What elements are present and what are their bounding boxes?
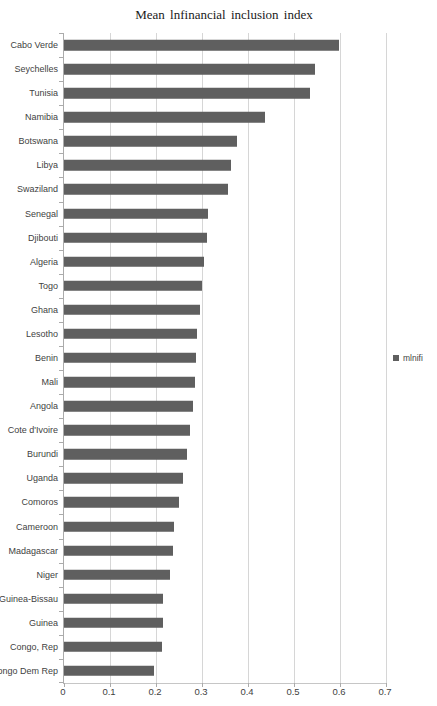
bar-row: Ghana	[0, 298, 437, 322]
category-label: Congo, Rep	[0, 635, 58, 659]
legend-marker-square	[393, 355, 399, 361]
x-tick-label: 0.2	[148, 686, 161, 697]
x-tick-label: 0.5	[286, 686, 299, 697]
bar	[64, 232, 207, 243]
x-tick-label: 0.4	[240, 686, 253, 697]
category-label: Senegal	[0, 202, 58, 226]
category-label: Namibia	[0, 105, 58, 129]
bar	[64, 521, 174, 532]
legend-label: mlnifi	[403, 353, 423, 363]
x-tick-label: 0.3	[194, 686, 207, 697]
category-label: Swaziland	[0, 177, 58, 201]
category-label: Guinea	[0, 611, 58, 635]
x-tick-label: 0.1	[102, 686, 115, 697]
bar-row: Algeria	[0, 250, 437, 274]
bar	[64, 401, 193, 412]
category-label: Angola	[0, 394, 58, 418]
category-label: Cameroon	[0, 514, 58, 538]
bar-row: Cabo Verde	[0, 33, 437, 57]
bar	[64, 160, 231, 171]
bar-row: Cameroon	[0, 514, 437, 538]
bar-row: Guinea	[0, 611, 437, 635]
bar-row: Libya	[0, 153, 437, 177]
bar-row: Botswana	[0, 129, 437, 153]
category-label: Cote d'Ivoire	[0, 418, 58, 442]
bar-row: Swaziland	[0, 177, 437, 201]
bar	[64, 449, 187, 460]
bar	[64, 377, 195, 388]
bar-row: Djibouti	[0, 226, 437, 250]
bar-row: Angola	[0, 394, 437, 418]
bar	[64, 666, 154, 677]
legend: mlnifi	[393, 353, 423, 363]
bar	[64, 184, 228, 195]
bar	[64, 569, 170, 580]
bar	[64, 473, 183, 484]
category-label: Libya	[0, 153, 58, 177]
bar	[64, 545, 173, 556]
bar-row: Cote d'Ivoire	[0, 418, 437, 442]
bar	[64, 305, 200, 316]
category-label: Burundi	[0, 442, 58, 466]
bar-row: Tunisia	[0, 81, 437, 105]
bar-rows: Cabo VerdeSeychellesTunisiaNamibiaBotswa…	[0, 33, 437, 683]
bar-row: Mali	[0, 370, 437, 394]
bar	[64, 497, 179, 508]
bar	[64, 40, 339, 51]
bar-row: Senegal	[0, 202, 437, 226]
bar	[64, 281, 202, 292]
bar-row: Congo Dem Rep	[0, 659, 437, 683]
bar-row: Burundi	[0, 442, 437, 466]
category-label: Togo	[0, 274, 58, 298]
bar-row: Madagascar	[0, 539, 437, 563]
bar	[64, 593, 163, 604]
x-tick-label: 0.7	[378, 686, 391, 697]
bar-row: Seychelles	[0, 57, 437, 81]
category-label: Guinea-Bissau	[0, 587, 58, 611]
bar-row: Benin	[0, 346, 437, 370]
x-tick-label: 0.6	[332, 686, 345, 697]
bar	[64, 329, 197, 340]
category-label: Madagascar	[0, 539, 58, 563]
bar	[64, 88, 310, 99]
category-label: Uganda	[0, 466, 58, 490]
bar	[64, 642, 162, 653]
category-label: Djibouti	[0, 226, 58, 250]
x-tick-label: 0	[60, 686, 65, 697]
category-label: Comoros	[0, 490, 58, 514]
bar	[64, 618, 163, 629]
bar	[64, 64, 315, 75]
bar-row: Comoros	[0, 490, 437, 514]
bar-row: Togo	[0, 274, 437, 298]
category-label: Cabo Verde	[0, 33, 58, 57]
bar-row: Lesotho	[0, 322, 437, 346]
category-label: Algeria	[0, 250, 58, 274]
category-label: Seychelles	[0, 57, 58, 81]
bar	[64, 136, 237, 147]
chart-title: Mean lnfinancial inclusion index	[63, 7, 385, 23]
x-axis-labels: 00.10.20.30.40.50.60.7	[63, 686, 385, 698]
bar	[64, 112, 265, 123]
bar	[64, 256, 204, 267]
category-label: Niger	[0, 563, 58, 587]
bar	[64, 353, 196, 364]
category-label: Benin	[0, 346, 58, 370]
bar-row: Congo, Rep	[0, 635, 437, 659]
bar	[64, 425, 190, 436]
category-label: Mali	[0, 370, 58, 394]
chart-canvas: Mean lnfinancial inclusion index Cabo Ve…	[0, 0, 437, 706]
bar-row: Guinea-Bissau	[0, 587, 437, 611]
category-label: Congo Dem Rep	[0, 659, 58, 683]
bar-row: Namibia	[0, 105, 437, 129]
category-label: Ghana	[0, 298, 58, 322]
category-label: Botswana	[0, 129, 58, 153]
category-label: Tunisia	[0, 81, 58, 105]
bar-row: Uganda	[0, 466, 437, 490]
bar	[64, 208, 208, 219]
category-label: Lesotho	[0, 322, 58, 346]
bar-row: Niger	[0, 563, 437, 587]
